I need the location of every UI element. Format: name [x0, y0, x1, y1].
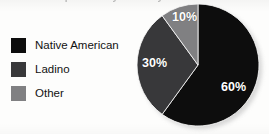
chart-title-fragment: Population by Ethnicity: [52, 0, 172, 2]
slice-label-ladino: 30%: [142, 56, 167, 70]
pie-chart: 60% 30% 10%: [137, 4, 262, 129]
legend-item-native-american[interactable]: Native American: [11, 36, 139, 55]
legend-label-ladino: Ladino: [35, 63, 70, 76]
slice-label-native-american: 60%: [221, 80, 246, 94]
pie-chart-figure: Population by Ethnicity Native American …: [0, 0, 269, 134]
legend-swatch-other-icon: [11, 86, 26, 101]
legend-swatch-ladino-icon: [11, 62, 26, 77]
legend-label-other: Other: [35, 87, 64, 100]
legend-swatch-native-american-icon: [11, 38, 26, 53]
chart-legend: Native American Ladino Other: [11, 36, 139, 108]
legend-item-other[interactable]: Other: [11, 84, 139, 103]
legend-label-native-american: Native American: [35, 39, 119, 52]
legend-item-ladino[interactable]: Ladino: [11, 60, 139, 79]
slice-label-other: 10%: [172, 10, 197, 24]
